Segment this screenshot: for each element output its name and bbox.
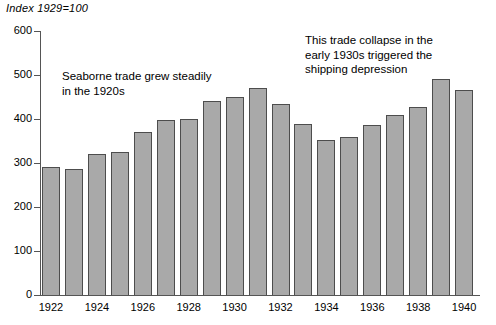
y-axis-tick-label: 600 (2, 25, 32, 36)
x-axis-tick-label-1926: 1926 (123, 301, 163, 314)
y-axis-tick-label: 400 (2, 113, 32, 124)
bar-1936 (363, 125, 381, 295)
y-axis-tick (34, 295, 41, 296)
x-axis-tick-label-1936: 1936 (352, 301, 392, 314)
x-axis-tick-label-1922: 1922 (31, 301, 71, 314)
y-axis-tick-label: 200 (2, 201, 32, 212)
y-axis-tick (34, 163, 41, 164)
bar-1923 (65, 169, 83, 295)
bar-1931 (249, 88, 267, 295)
bar-1924 (88, 154, 106, 295)
y-axis-tick-label: 300 (2, 157, 32, 168)
bar-1937 (386, 115, 404, 295)
y-axis-tick (34, 75, 41, 76)
y-axis-tick-label: 500 (2, 69, 32, 80)
y-axis-tick (34, 251, 41, 252)
bar-1932 (272, 104, 290, 295)
bar-1935 (340, 137, 358, 295)
bar-1925 (111, 152, 129, 295)
annotation-seaborne-trade-grew: Seaborne trade grew steadily in the 1920… (62, 69, 212, 98)
y-axis-tick (34, 207, 41, 208)
x-axis-tick-label-1932: 1932 (261, 301, 301, 314)
bar-1926 (134, 132, 152, 295)
x-axis-tick-label-1928: 1928 (169, 301, 209, 314)
seaborne-trade-index-bar-chart: Index 1929=100 0100200300400500600 19221… (0, 0, 496, 325)
bar-1929 (203, 101, 221, 295)
bar-1939 (432, 79, 450, 295)
x-axis-tick-label-1934: 1934 (306, 301, 346, 314)
bar-1930 (226, 97, 244, 295)
x-axis-tick-label-1924: 1924 (77, 301, 117, 314)
y-axis-tick-label: 100 (2, 245, 32, 256)
x-axis-line (40, 295, 480, 296)
bar-1922 (42, 167, 60, 295)
bar-1927 (157, 120, 175, 295)
y-axis-tick-label: 0 (2, 289, 32, 300)
plot-area: 0100200300400500600 19221924192619281930… (0, 0, 496, 325)
x-axis-tick-label-1930: 1930 (215, 301, 255, 314)
x-axis-tick-label-1938: 1938 (398, 301, 438, 314)
x-axis-tick-label-1940: 1940 (444, 301, 484, 314)
bar-1934 (317, 140, 335, 295)
bar-1928 (180, 119, 198, 295)
y-axis-tick (34, 31, 41, 32)
bar-1940 (455, 90, 473, 295)
y-axis-tick (34, 119, 41, 120)
annotation-trade-collapse: This trade collapse in the early 1930s t… (305, 33, 433, 77)
bar-1938 (409, 107, 427, 295)
bar-1933 (294, 124, 312, 295)
